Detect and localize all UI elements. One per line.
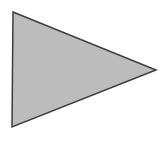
triangle-svg — [0, 0, 164, 141]
drawing-canvas — [0, 0, 164, 141]
